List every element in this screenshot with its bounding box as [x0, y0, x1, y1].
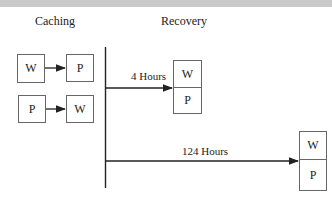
caching-row2-from-box: P: [18, 95, 46, 123]
stack-cell-bottom: P: [300, 160, 326, 190]
stack-cell-top: W: [300, 132, 326, 160]
caching-row1-from-box: W: [17, 54, 45, 83]
recovery-stack-124-hours: W P: [299, 131, 327, 191]
caching-row1-to-box: P: [66, 54, 94, 82]
stack-cell-top: W: [174, 61, 201, 88]
caching-row2-to-box: W: [66, 95, 94, 123]
stack-cell-bottom: P: [174, 88, 201, 113]
recovery-stack-4-hours: W P: [173, 60, 202, 114]
event-label-4-hours: 4 Hours: [131, 70, 166, 82]
event-label-124-hours: 124 Hours: [182, 145, 228, 157]
diagram-lines: [0, 0, 332, 201]
